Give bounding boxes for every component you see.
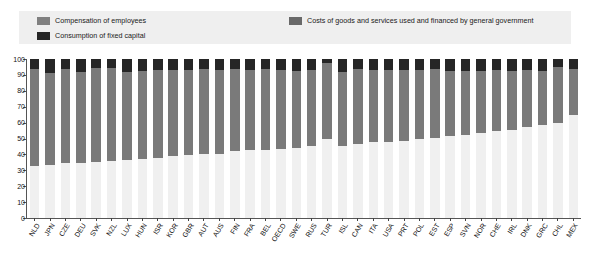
bar-segment-costs-of-goods-and-services[interactable] [492, 70, 502, 131]
bar-slot[interactable] [443, 59, 458, 218]
bar-segment-compensation-of-employees[interactable] [430, 138, 440, 218]
bar-segment-compensation-of-employees[interactable] [76, 163, 86, 218]
bar-segment-consumption-of-fixed-capital[interactable] [522, 59, 532, 70]
bar-segment-costs-of-goods-and-services[interactable] [199, 69, 209, 154]
bar-segment-costs-of-goods-and-services[interactable] [569, 69, 579, 116]
stacked-bar[interactable] [307, 59, 317, 218]
bar-segment-consumption-of-fixed-capital[interactable] [245, 59, 255, 70]
bar-segment-compensation-of-employees[interactable] [569, 115, 579, 218]
bar-slot[interactable] [520, 59, 535, 218]
bar-segment-costs-of-goods-and-services[interactable] [76, 72, 86, 163]
bar-segment-consumption-of-fixed-capital[interactable] [399, 59, 409, 70]
bar-segment-compensation-of-employees[interactable] [476, 133, 486, 218]
bar-segment-compensation-of-employees[interactable] [107, 161, 117, 218]
bar-segment-compensation-of-employees[interactable] [307, 146, 317, 218]
stacked-bar[interactable] [230, 59, 240, 218]
bar-segment-costs-of-goods-and-services[interactable] [245, 70, 255, 150]
bar-segment-compensation-of-employees[interactable] [522, 127, 532, 218]
stacked-bar[interactable] [199, 59, 209, 218]
bar-segment-consumption-of-fixed-capital[interactable] [538, 59, 548, 71]
bar-segment-costs-of-goods-and-services[interactable] [261, 69, 271, 149]
bar-segment-costs-of-goods-and-services[interactable] [507, 71, 517, 130]
bar-slot[interactable] [304, 59, 319, 218]
bar-segment-costs-of-goods-and-services[interactable] [107, 68, 117, 161]
bar-segment-consumption-of-fixed-capital[interactable] [507, 59, 517, 71]
bar-segment-compensation-of-employees[interactable] [415, 139, 425, 218]
stacked-bar[interactable] [369, 59, 379, 218]
bar-slot[interactable] [489, 59, 504, 218]
bar-segment-costs-of-goods-and-services[interactable] [538, 71, 548, 125]
stacked-bar[interactable] [553, 59, 563, 218]
stacked-bar[interactable] [476, 59, 486, 218]
stacked-bar[interactable] [338, 59, 348, 218]
bar-segment-compensation-of-employees[interactable] [445, 136, 455, 218]
bar-segment-compensation-of-employees[interactable] [384, 142, 394, 218]
bar-segment-consumption-of-fixed-capital[interactable] [76, 59, 86, 72]
bar-segment-consumption-of-fixed-capital[interactable] [569, 59, 579, 69]
bar-slot[interactable] [412, 59, 427, 218]
bar-segment-consumption-of-fixed-capital[interactable] [292, 59, 302, 71]
bar-segment-consumption-of-fixed-capital[interactable] [307, 59, 317, 70]
stacked-bar[interactable] [353, 59, 363, 218]
bar-segment-consumption-of-fixed-capital[interactable] [415, 59, 425, 70]
bar-segment-costs-of-goods-and-services[interactable] [215, 70, 225, 153]
bar-segment-compensation-of-employees[interactable] [61, 163, 71, 218]
bar-segment-costs-of-goods-and-services[interactable] [153, 70, 163, 157]
bar-slot[interactable] [535, 59, 550, 218]
bar-segment-costs-of-goods-and-services[interactable] [45, 73, 55, 164]
bar-segment-costs-of-goods-and-services[interactable] [184, 70, 194, 155]
bar-slot[interactable] [27, 59, 42, 218]
bar-segment-consumption-of-fixed-capital[interactable] [61, 59, 71, 69]
stacked-bar[interactable] [245, 59, 255, 218]
bar-slot[interactable] [504, 59, 519, 218]
bar-segment-consumption-of-fixed-capital[interactable] [430, 59, 440, 69]
bar-segment-compensation-of-employees[interactable] [230, 151, 240, 218]
stacked-bar[interactable] [538, 59, 548, 218]
bar-segment-consumption-of-fixed-capital[interactable] [153, 59, 163, 70]
bar-segment-costs-of-goods-and-services[interactable] [61, 69, 71, 164]
stacked-bar[interactable] [215, 59, 225, 218]
bar-segment-consumption-of-fixed-capital[interactable] [445, 59, 455, 71]
stacked-bar[interactable] [138, 59, 148, 218]
bar-slot[interactable] [381, 59, 396, 218]
bar-segment-consumption-of-fixed-capital[interactable] [261, 59, 271, 69]
bar-segment-costs-of-goods-and-services[interactable] [30, 69, 40, 166]
bar-segment-compensation-of-employees[interactable] [322, 139, 332, 219]
stacked-bar[interactable] [45, 59, 55, 218]
bar-segment-costs-of-goods-and-services[interactable] [461, 71, 471, 135]
bar-segment-consumption-of-fixed-capital[interactable] [553, 59, 563, 67]
bar-slot[interactable] [104, 59, 119, 218]
bar-slot[interactable] [550, 59, 565, 218]
bar-segment-compensation-of-employees[interactable] [199, 154, 209, 218]
bar-segment-costs-of-goods-and-services[interactable] [476, 71, 486, 133]
bar-segment-compensation-of-employees[interactable] [276, 149, 286, 218]
bar-segment-compensation-of-employees[interactable] [138, 159, 148, 218]
bar-slot[interactable] [212, 59, 227, 218]
bar-segment-compensation-of-employees[interactable] [353, 144, 363, 218]
bar-slot[interactable] [42, 59, 57, 218]
bar-segment-costs-of-goods-and-services[interactable] [553, 67, 563, 123]
bar-slot[interactable] [119, 59, 134, 218]
stacked-bar[interactable] [415, 59, 425, 218]
bar-segment-compensation-of-employees[interactable] [122, 160, 132, 218]
bar-slot[interactable] [289, 59, 304, 218]
stacked-bar[interactable] [384, 59, 394, 218]
stacked-bar[interactable] [107, 59, 117, 218]
stacked-bar[interactable] [61, 59, 71, 218]
stacked-bar[interactable] [91, 59, 101, 218]
bar-slot[interactable] [242, 59, 257, 218]
bar-segment-consumption-of-fixed-capital[interactable] [30, 59, 40, 69]
stacked-bar[interactable] [30, 59, 40, 218]
bar-slot[interactable] [350, 59, 365, 218]
bar-slot[interactable] [427, 59, 442, 218]
bar-slot[interactable] [58, 59, 73, 218]
bar-segment-compensation-of-employees[interactable] [215, 154, 225, 218]
stacked-bar[interactable] [76, 59, 86, 218]
bar-slot[interactable] [196, 59, 211, 218]
bar-segment-costs-of-goods-and-services[interactable] [91, 68, 101, 162]
stacked-bar[interactable] [522, 59, 532, 218]
bar-segment-compensation-of-employees[interactable] [168, 156, 178, 218]
bar-segment-consumption-of-fixed-capital[interactable] [461, 59, 471, 71]
bar-segment-compensation-of-employees[interactable] [153, 158, 163, 218]
bar-segment-consumption-of-fixed-capital[interactable] [369, 59, 379, 70]
